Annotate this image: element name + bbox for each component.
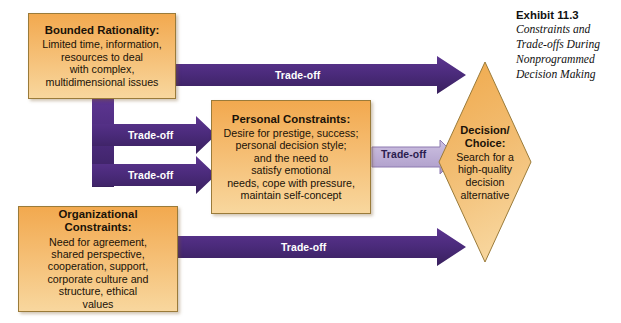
node-line: resources to deal	[61, 51, 143, 63]
node-line: alternative	[437, 189, 533, 202]
node-title-decision-line2: Choice:	[437, 137, 533, 150]
node-line: decision	[437, 176, 533, 189]
exhibit-diagram: Trade-off Trade-off Trade-off Trade-off …	[0, 0, 621, 323]
node-title-bounded-rationality: Bounded Rationality:	[45, 24, 160, 37]
exhibit-caption: Exhibit 11.3 Constraints and Trade-offs …	[516, 8, 615, 83]
arrow-bounded-to-decision	[176, 56, 466, 94]
arrow-label-org-to-personal: Trade-off	[128, 170, 173, 181]
arrow-label-bounded-to-personal: Trade-off	[128, 130, 173, 141]
node-line: cooperation, support,	[48, 260, 148, 272]
node-line: maintain self-concept	[241, 189, 342, 201]
node-decision-choice: Decision/ Choice: Search for a high-qual…	[437, 60, 533, 264]
node-line: and the need to	[254, 152, 328, 164]
node-line: Limited time, information,	[42, 38, 161, 50]
node-organizational-constraints: Organizational Constraints: Need for agr…	[18, 206, 178, 312]
node-line: high-quality	[437, 163, 533, 176]
arrow-label-personal-to-decision: Trade-off	[381, 149, 426, 160]
node-line: corporate culture and	[48, 273, 149, 285]
node-title-personal-constraints: Personal Constraints:	[232, 113, 350, 126]
exhibit-number: Exhibit 11.3	[516, 8, 615, 22]
node-line: needs, cope with pressure,	[227, 177, 355, 189]
node-line: personal decision style;	[235, 139, 346, 151]
arrow-label-bounded-to-decision: Trade-off	[275, 70, 320, 81]
node-title-organizational-constraints: Organizational Constraints:	[24, 208, 172, 234]
node-line: Desire for prestige, success;	[224, 127, 359, 139]
exhibit-caption-text: Constraints and Trade-offs During Nonpro…	[516, 23, 615, 82]
node-bounded-rationality: Bounded Rationality: Limited time, infor…	[28, 13, 176, 99]
node-line: structure, ethical	[59, 285, 137, 297]
node-line: Need for agreement,	[49, 236, 147, 248]
decision-choice-text: Decision/ Choice: Search for a high-qual…	[437, 124, 533, 201]
node-line: values	[83, 298, 114, 310]
node-line: with complex,	[70, 63, 135, 75]
node-line: Search for a	[437, 151, 533, 164]
node-line: shared perspective,	[51, 248, 144, 260]
arrow-label-org-to-decision: Trade-off	[281, 242, 326, 253]
node-line: multidimensional issues	[46, 76, 159, 88]
node-title-decision-line1: Decision/	[437, 124, 533, 137]
node-personal-constraints: Personal Constraints: Desire for prestig…	[211, 100, 371, 214]
node-line: satisfy emotional	[251, 164, 331, 176]
